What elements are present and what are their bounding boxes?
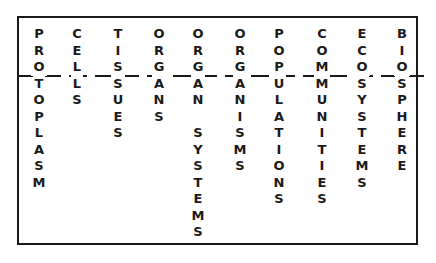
level-letter: R — [152, 43, 166, 60]
level-letter: O — [190, 26, 205, 43]
level-letter: I — [236, 109, 245, 126]
diagram-frame: PROTOPLASMCELLSTISSUESORGANSORGANSYSTEMS… — [17, 16, 418, 245]
level-letter: O — [271, 158, 286, 175]
level-letter: C — [355, 43, 369, 60]
level-letter: L — [273, 92, 285, 109]
level-letter: R — [32, 43, 46, 60]
level-letter: G — [233, 59, 248, 76]
level-column-tissues: TISSUES — [108, 26, 128, 142]
level-letter — [196, 109, 200, 126]
level-letter: S — [355, 109, 368, 126]
level-letter: S — [191, 224, 204, 241]
level-letter: U — [315, 92, 330, 109]
level-column-biosphere: BIOSPHERE — [392, 26, 412, 175]
level-column-protoplasm: PROTOPLASM — [29, 26, 49, 191]
level-letter: E — [356, 142, 369, 159]
level-letter: C — [315, 26, 329, 43]
level-letter: B — [395, 26, 409, 43]
level-letter: S — [32, 158, 45, 175]
level-letter: Y — [191, 142, 204, 159]
level-letter: E — [356, 26, 369, 43]
level-letter: T — [192, 175, 205, 192]
level-letter: E — [112, 109, 125, 126]
level-column-cells: CELLS — [67, 26, 87, 109]
level-letter: S — [111, 125, 124, 142]
level-letter: P — [395, 92, 409, 109]
level-letter: O — [232, 26, 247, 43]
level-letter: E — [396, 158, 409, 175]
level-letter: H — [395, 109, 410, 126]
level-letter: T — [112, 26, 125, 43]
level-letter: O — [31, 59, 46, 76]
level-letter: P — [272, 26, 286, 43]
level-letter: U — [272, 76, 287, 93]
level-letter: G — [191, 59, 206, 76]
level-letter: P — [32, 26, 46, 43]
level-letter: E — [316, 175, 329, 192]
level-letter: N — [152, 92, 167, 109]
level-letter: A — [191, 76, 205, 93]
level-letter: S — [355, 175, 368, 192]
level-letter: S — [152, 109, 165, 126]
level-letter: O — [31, 92, 46, 109]
level-letter: S — [191, 125, 204, 142]
level-letter: I — [318, 158, 327, 175]
level-letter: R — [395, 142, 409, 159]
level-letter: L — [71, 59, 83, 76]
level-letter: S — [111, 59, 124, 76]
level-letter: S — [272, 191, 285, 208]
level-column-organ-systems: ORGANSYSTEMS — [188, 26, 208, 241]
level-letter: M — [354, 158, 371, 175]
level-column-organisms: ORGANISMS — [230, 26, 250, 175]
level-column-populations: POPULATIONS — [269, 26, 289, 208]
level-letter: O — [394, 59, 409, 76]
level-letter: I — [318, 125, 327, 142]
level-letter: R — [191, 43, 205, 60]
level-letter: S — [395, 76, 408, 93]
level-letter: U — [111, 92, 126, 109]
level-letter: A — [233, 76, 247, 93]
level-letter: S — [70, 92, 83, 109]
level-letter: L — [71, 76, 83, 93]
level-column-organs: ORGANS — [149, 26, 169, 125]
level-letter: M — [232, 142, 249, 159]
level-letter: N — [233, 92, 248, 109]
level-letter: M — [314, 76, 331, 93]
level-letter: M — [314, 59, 331, 76]
level-letter: I — [275, 142, 284, 159]
level-letter: M — [31, 175, 48, 192]
level-letter: C — [70, 26, 84, 43]
level-column-communities: COMMUNITIES — [312, 26, 332, 208]
level-letter: O — [151, 26, 166, 43]
level-letter: M — [190, 208, 207, 225]
level-letter: S — [111, 76, 124, 93]
level-letter: A — [32, 142, 46, 159]
level-letter: S — [233, 158, 246, 175]
level-letter: I — [114, 43, 123, 60]
level-letter: O — [314, 43, 329, 60]
level-letter: N — [315, 109, 330, 126]
level-column-ecosystems: ECOSYSTEMS — [352, 26, 372, 191]
level-letter: S — [355, 76, 368, 93]
level-letter: E — [71, 43, 84, 60]
level-letter: S — [191, 158, 204, 175]
level-letter: R — [233, 43, 247, 60]
level-letter: T — [33, 76, 46, 93]
level-letter: E — [192, 191, 205, 208]
level-letter: P — [32, 109, 46, 126]
level-letter: N — [272, 175, 287, 192]
level-letter: O — [354, 59, 369, 76]
level-letter: N — [191, 92, 206, 109]
level-letter: T — [273, 125, 286, 142]
level-letter: A — [152, 76, 166, 93]
level-letter: P — [272, 59, 286, 76]
level-letter: S — [233, 125, 246, 142]
level-letter: I — [398, 43, 407, 60]
level-letter: L — [33, 125, 45, 142]
level-letter: G — [152, 59, 167, 76]
level-letter: Y — [355, 92, 368, 109]
level-letter: T — [316, 142, 329, 159]
level-letter: A — [272, 109, 286, 126]
level-letter: E — [396, 125, 409, 142]
level-letter: T — [356, 125, 369, 142]
